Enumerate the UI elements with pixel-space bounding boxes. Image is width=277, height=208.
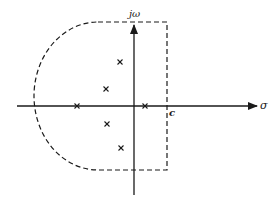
- pole-marker-1: [118, 60, 123, 65]
- pole-marker-2: [104, 87, 109, 92]
- dashed-contour: [34, 22, 167, 170]
- sigma-label: σ: [260, 99, 268, 112]
- s-plane-diagram: jω σ c: [0, 0, 277, 208]
- pole-marker-6: [119, 146, 124, 151]
- jw-label: jω: [127, 8, 140, 19]
- c-label: c: [169, 107, 175, 118]
- poles: [75, 60, 148, 151]
- pole-marker-5: [105, 122, 110, 127]
